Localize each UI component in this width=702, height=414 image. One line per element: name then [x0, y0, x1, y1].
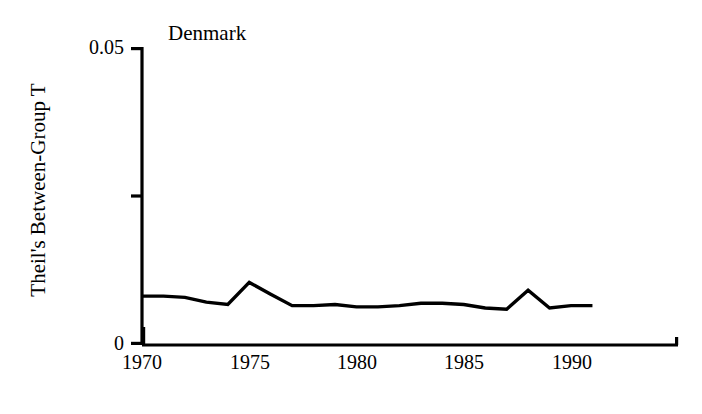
y-tick-label-top: 0.05 [62, 36, 124, 59]
x-tick-label-1990: 1990 [540, 351, 604, 374]
x-tick-label-1970: 1970 [110, 351, 174, 374]
x-tick-label-1975: 1975 [218, 351, 282, 374]
data-series-line [142, 282, 592, 309]
chart-figure: Theil's Between-Group T Denmark 0.05 0 1… [0, 0, 702, 414]
x-tick-label-1985: 1985 [432, 351, 496, 374]
x-tick-label-1980: 1980 [325, 351, 389, 374]
